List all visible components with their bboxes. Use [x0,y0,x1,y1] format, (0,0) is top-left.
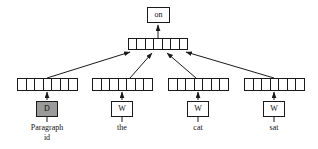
vector-cell [288,79,297,90]
vector-cell [127,79,136,90]
word-sat-caption: sat [247,123,301,133]
vector-cell [129,39,137,49]
word-sat-vector [244,78,305,91]
word-cat-matrix-label: W [194,105,202,113]
word-sat-caption-text: sat [270,123,279,132]
vector-cell [146,39,154,49]
word-the-matrix-box: W [111,101,133,117]
word-cat-caption: cat [171,123,225,133]
word-cat-matrix-box: W [187,101,209,117]
word-sat-matrix-label: W [270,105,278,113]
vector-cell [18,79,27,90]
vector-cell [212,79,221,90]
vector-cell [169,79,178,90]
vector-cell [171,39,179,49]
vector-cell [69,79,77,90]
vector-cell [254,79,263,90]
vector-cell [271,79,280,90]
vector-cell [195,79,204,90]
vector-cell [119,79,128,90]
edge-paragraph-to-hidden [47,52,130,78]
word-cat-caption-text: cat [193,123,202,132]
vector-cell [203,79,212,90]
word-sat-matrix-box: W [263,101,285,117]
vector-cell [163,39,171,49]
word-the-caption: the [95,123,149,133]
edge-cat-to-hidden [167,53,196,78]
paragraph-caption: Paragraph id [20,123,74,142]
paragraph-caption-line1: Paragraph [20,123,74,133]
vector-cell [245,79,254,90]
output-word-label: on [155,11,163,19]
vector-cell [137,39,145,49]
vector-cell [61,79,70,90]
word-the-vector [92,78,153,91]
word-the-caption-text: the [117,123,127,132]
vector-cell [136,79,145,90]
vector-cell [44,79,53,90]
vector-cell [178,79,187,90]
edge-sat-to-hidden [186,52,274,78]
word-cat-vector [168,78,229,91]
edge-the-to-hidden [130,53,152,78]
vector-cell [262,79,271,90]
paragraph-matrix-label: D [44,105,50,113]
vector-cell [144,79,152,90]
vector-cell [35,79,44,90]
output-word-box: on [147,7,170,23]
vector-cell [154,39,162,49]
vector-cell [102,79,111,90]
vector-cell [220,79,228,90]
pv-dm-architecture-diagram: on D Paragraph id W t [0,0,318,149]
vector-cell [180,39,187,49]
vector-cell [110,79,119,90]
vector-cell [296,79,304,90]
vector-cell [93,79,102,90]
paragraph-matrix-box: D [36,101,58,117]
vector-cell [279,79,288,90]
vector-cell [52,79,61,90]
concatenation-layer-vector [128,38,188,50]
paragraph-vector [17,78,78,91]
paragraph-caption-line2: id [20,133,74,143]
vector-cell [27,79,36,90]
word-the-matrix-label: W [118,105,126,113]
vector-cell [186,79,195,90]
